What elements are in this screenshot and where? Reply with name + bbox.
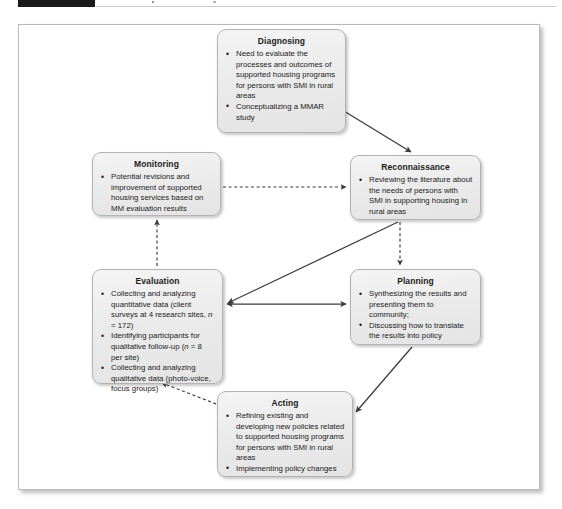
node-planning[interactable]: Planning Synthesizing the results and pr… xyxy=(350,269,481,345)
list-item: Collecting and analyzing qualitative dat… xyxy=(100,363,215,395)
list-item: Collecting and analyzing quantitative da… xyxy=(100,289,215,331)
node-reconnaissance[interactable]: Reconnaissance Reviewing the literature … xyxy=(350,155,481,220)
list-item: Need to evaluate the processes and outco… xyxy=(225,49,338,102)
node-evaluation[interactable]: Evaluation Collecting and analyzing quan… xyxy=(92,269,223,384)
node-monitoring-title: Monitoring xyxy=(100,159,213,170)
header-mark-right xyxy=(213,1,216,3)
header-mark-left xyxy=(152,1,154,3)
list-item: Implementing policy changes xyxy=(225,464,345,475)
node-acting[interactable]: Acting Refining existing and developing … xyxy=(217,391,353,477)
list-item: Reviewing the literature about the needs… xyxy=(358,175,473,217)
node-diagnosing-title: Diagnosing xyxy=(225,36,338,47)
node-planning-title: Planning xyxy=(358,276,473,287)
list-item: Synthesizing the results and presenting … xyxy=(358,289,473,321)
header-divider-rule xyxy=(96,6,556,7)
node-acting-bullets: Refining existing and developing new pol… xyxy=(225,411,345,475)
node-planning-bullets: Synthesizing the results and presenting … xyxy=(358,289,473,342)
list-item: Potential revisions and improvement of s… xyxy=(100,172,213,214)
list-item: Conceptualizing a MMAR study xyxy=(225,102,338,123)
node-diagnosing[interactable]: Diagnosing Need to evaluate the processe… xyxy=(217,29,346,133)
node-evaluation-bullets: Collecting and analyzing quantitative da… xyxy=(100,289,215,395)
page-header-strip xyxy=(0,0,562,9)
node-monitoring-bullets: Potential revisions and improvement of s… xyxy=(100,172,213,214)
node-acting-title: Acting xyxy=(225,398,345,409)
node-reconnaissance-bullets: Reviewing the literature about the needs… xyxy=(358,175,473,217)
node-evaluation-title: Evaluation xyxy=(100,276,215,287)
node-reconnaissance-title: Reconnaissance xyxy=(358,162,473,173)
list-item: Refining existing and developing new pol… xyxy=(225,411,345,464)
node-monitoring[interactable]: Monitoring Potential revisions and impro… xyxy=(92,152,221,216)
list-item: Discussing how to translate the results … xyxy=(358,321,473,342)
header-black-tab xyxy=(18,0,95,7)
list-item: Identifying participants for qualitative… xyxy=(100,331,215,363)
node-diagnosing-bullets: Need to evaluate the processes and outco… xyxy=(225,49,338,123)
